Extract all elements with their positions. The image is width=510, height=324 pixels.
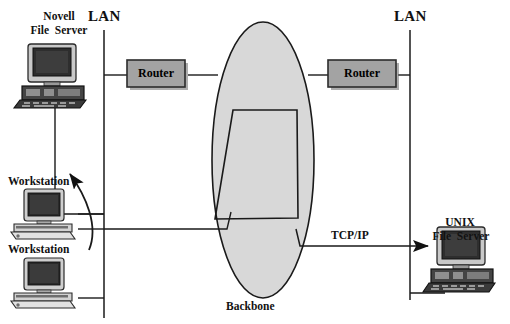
- workstation-bottom-icon: [11, 258, 75, 308]
- novell-file-server-icon: [14, 44, 86, 108]
- router-right-label: Router: [328, 66, 396, 81]
- backbone-label: Backbone: [226, 300, 275, 312]
- diagram-vector-layer: [0, 0, 510, 324]
- router-left-label: Router: [127, 66, 185, 81]
- lan-left-label: LAN: [88, 9, 121, 25]
- workstation-top-label: Workstation: [8, 175, 69, 187]
- backbone-ellipse: [212, 22, 314, 298]
- network-diagram-canvas: Novell File Server LAN LAN Router Router…: [0, 0, 510, 324]
- link-lanleft-backbone-lower: [104, 212, 231, 229]
- unix-server-label-line2: File Server: [416, 230, 506, 242]
- novell-server-label-line2: File Server: [8, 24, 110, 36]
- workstation-bottom-label: Workstation: [8, 243, 69, 255]
- tcpip-label: TCP/IP: [331, 229, 369, 241]
- unix-server-label-line1: UNIX: [428, 216, 492, 228]
- lan-right-label: LAN: [394, 9, 427, 25]
